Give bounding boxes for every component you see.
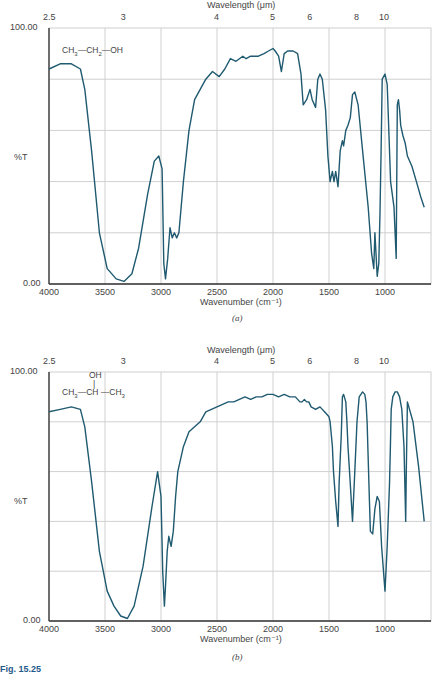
x2-tick-label: 2.5 [43,356,56,366]
x2-tick-label: 8 [354,356,359,366]
x-tick-label: 3000 [151,624,171,634]
x-axis-title-b: Wavenumber (cm⁻¹) [200,634,282,644]
x2-tick-label: 10 [379,356,389,366]
x-tick-label: 1500 [319,624,339,634]
x2-tick-label: 4 [214,356,219,366]
x2-tick-label: 3 [121,356,126,366]
spectrum-panel-b: Wavelength (μm) 100.00 0.00 %T OH | CH3—… [0,0,447,675]
x2-axis-title-b: Wavelength (μm) [207,345,275,355]
molecule-label-b: OH | CH3—CH —CH3 [62,370,125,402]
chart-b-svg [0,0,447,675]
x-axis-title-text-b: Wavenumber (cm⁻¹) [200,634,282,644]
x-tick-label: 1000 [375,624,395,634]
y-tick-100-b: 100.00 [10,366,38,376]
caption-b: (b) [232,652,243,662]
x-tick-label: 2000 [263,624,283,634]
y-tick-0-b: 0.00 [23,615,41,625]
x2-tick-label: 5 [270,356,275,366]
y-axis-title-b: %T [14,496,28,506]
x-tick-label: 3500 [95,624,115,634]
x2-tick-label: 6 [307,356,312,366]
x-tick-label: 2500 [207,624,227,634]
figure-label: Fig. 15.25 [0,664,41,674]
x-tick-label: 4000 [39,624,59,634]
